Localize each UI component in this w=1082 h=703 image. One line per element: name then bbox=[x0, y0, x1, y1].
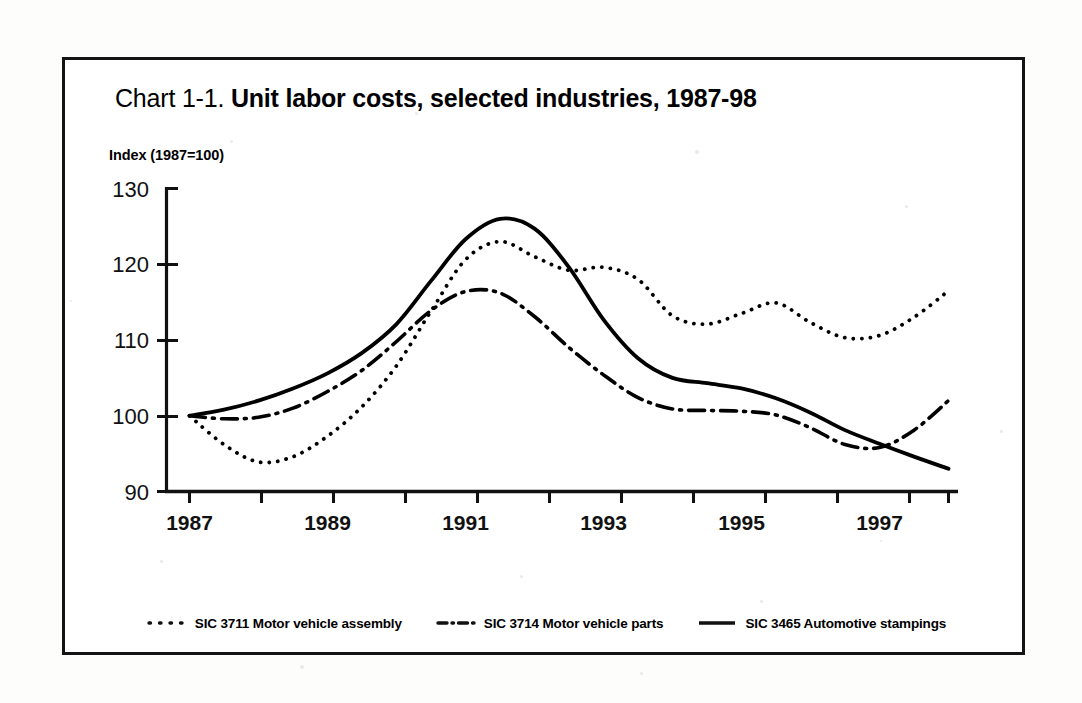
x-tick-label-1993: 1993 bbox=[580, 511, 627, 534]
dash-dot-line-icon bbox=[436, 617, 476, 629]
solid-line-icon bbox=[697, 617, 737, 629]
x-tick-label-1995: 1995 bbox=[718, 511, 765, 534]
y-tick-label-110: 110 bbox=[114, 328, 149, 353]
page-background: Chart 1-1. Unit labor costs, selected in… bbox=[0, 0, 1082, 703]
y-tick-label-100: 100 bbox=[112, 404, 149, 429]
scan-speckle bbox=[640, 672, 643, 675]
figure-frame: Chart 1-1. Unit labor costs, selected in… bbox=[62, 57, 1025, 655]
legend-label-stampings: SIC 3465 Automotive stampings bbox=[745, 616, 946, 631]
x-tick-label-1991: 1991 bbox=[442, 511, 489, 534]
legend-label-assembly: SIC 3711 Motor vehicle assembly bbox=[195, 616, 402, 631]
series-line-dotted bbox=[190, 242, 949, 463]
y-tick-label-90: 90 bbox=[125, 480, 149, 505]
y-axis-ticks bbox=[167, 189, 179, 492]
x-tick-label-1997: 1997 bbox=[856, 511, 903, 534]
legend-item-stampings: SIC 3465 Automotive stampings bbox=[697, 616, 946, 631]
y-axis-tick-labels: 90100110120130 bbox=[112, 177, 149, 505]
legend-item-parts: SIC 3714 Motor vehicle parts bbox=[436, 616, 664, 631]
x-tick-label-1989: 1989 bbox=[304, 511, 351, 534]
x-axis-ticks bbox=[190, 492, 949, 504]
axes bbox=[157, 187, 958, 503]
plot-area: 90100110120130 198719891991199319951997 bbox=[65, 60, 1028, 658]
scan-speckle bbox=[300, 665, 304, 669]
y-tick-label-120: 120 bbox=[112, 252, 149, 277]
x-axis-tick-labels: 198719891991199319951997 bbox=[166, 511, 903, 534]
series-line-solid bbox=[190, 218, 949, 468]
legend-label-parts: SIC 3714 Motor vehicle parts bbox=[484, 616, 664, 631]
dotted-line-icon bbox=[147, 617, 187, 629]
data-series-group bbox=[190, 218, 949, 468]
y-tick-label-130: 130 bbox=[112, 177, 149, 202]
legend-item-assembly: SIC 3711 Motor vehicle assembly bbox=[147, 616, 402, 631]
x-tick-label-1987: 1987 bbox=[166, 511, 213, 534]
chart-legend: SIC 3711 Motor vehicle assembly SIC 3714… bbox=[65, 606, 1028, 640]
